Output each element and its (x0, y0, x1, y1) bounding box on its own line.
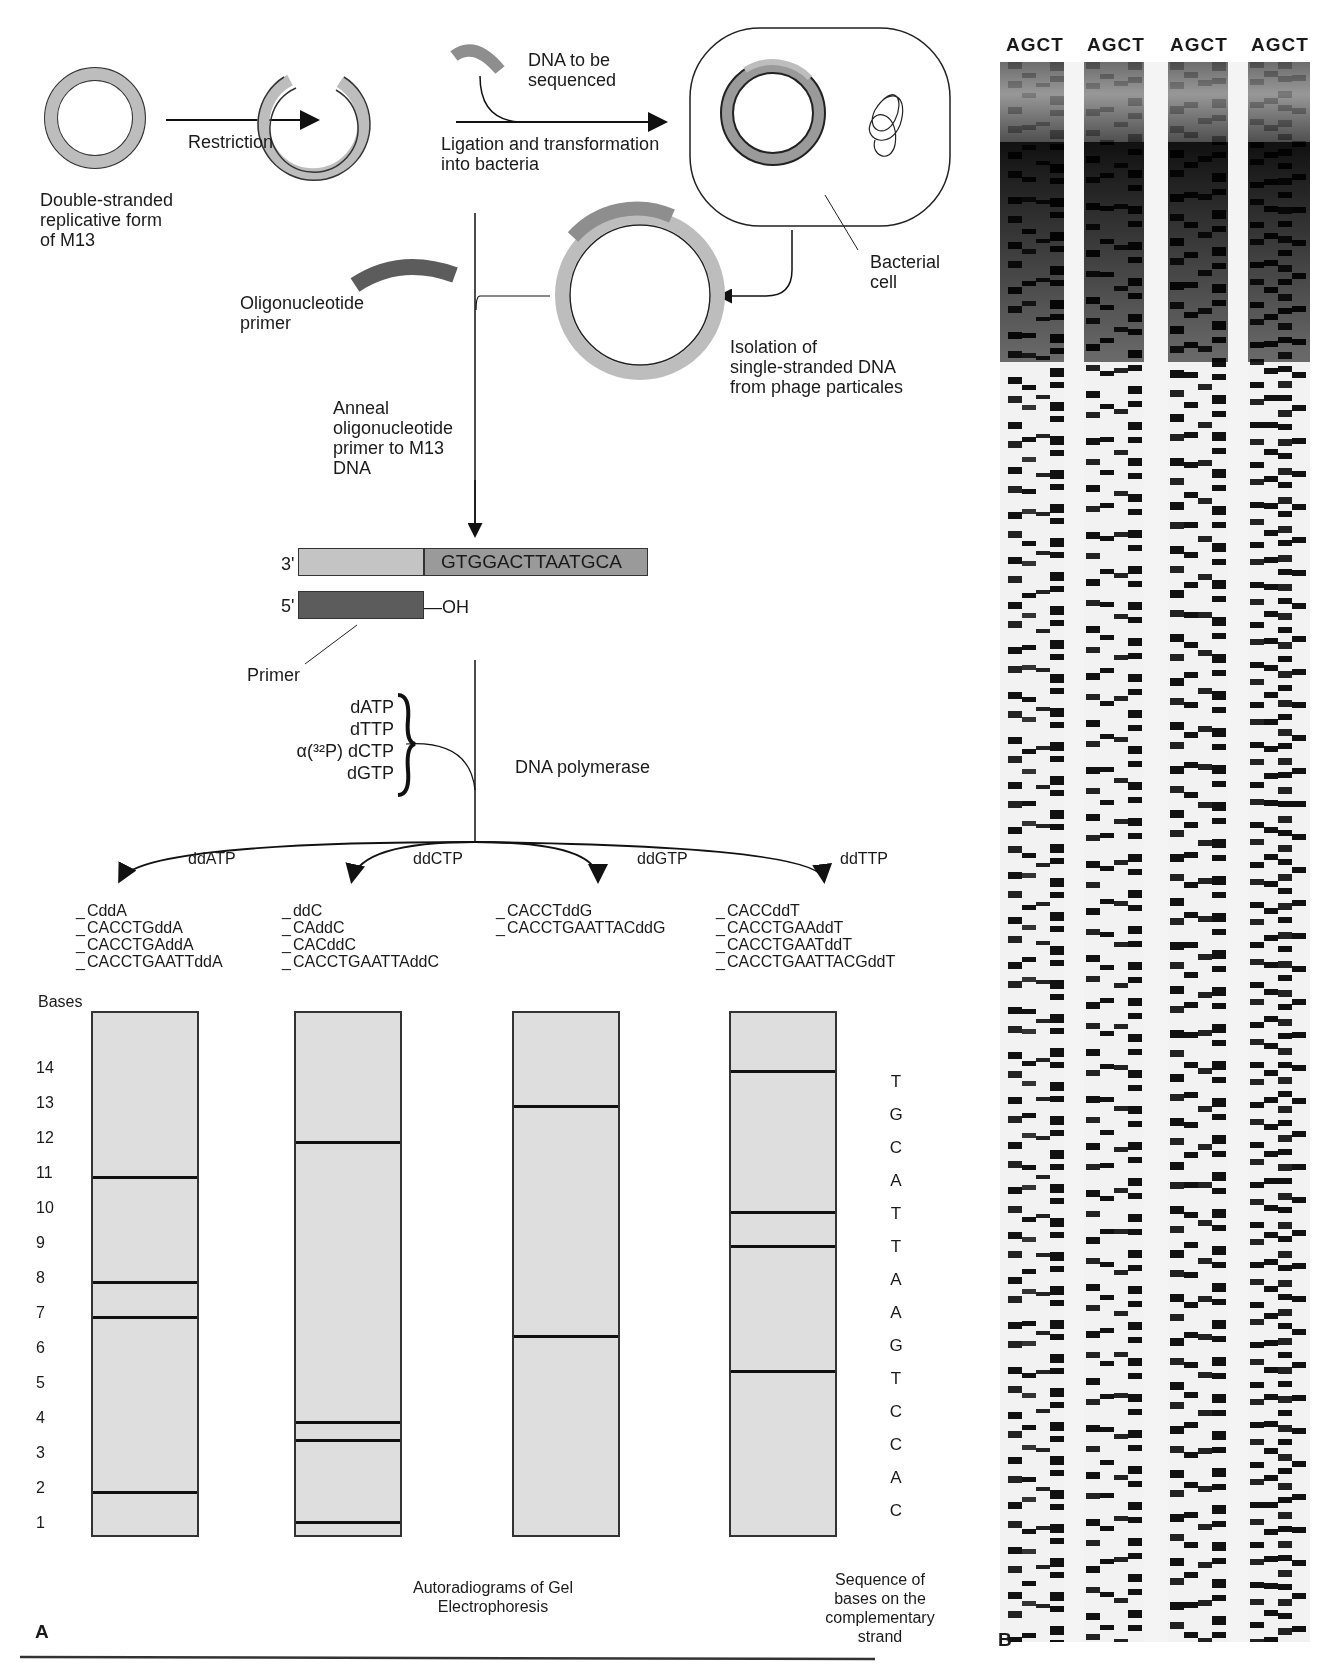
lane-header-1: AGCT (1006, 34, 1064, 56)
band-6 (514, 1335, 618, 1338)
dna-to-be-sequenced-label: DNA to be sequenced (528, 50, 616, 90)
base: A (886, 1468, 906, 1488)
band-8 (93, 1281, 197, 1284)
template-sequence: GTGGACTTAATGCA (424, 548, 648, 576)
sequence-caption: Sequence of bases on the complementary s… (818, 1570, 942, 1646)
dntp-datp: dATP (344, 697, 394, 717)
base: C (886, 1435, 906, 1455)
band-14 (731, 1070, 835, 1073)
bacterial-chromosome-icon (869, 95, 902, 156)
axis-tick: 12 (36, 1129, 66, 1147)
insert-dna-icon (454, 50, 500, 70)
base: C (886, 1501, 906, 1521)
base: T (886, 1204, 906, 1224)
band-7 (93, 1316, 197, 1319)
fragment: CAddC (282, 919, 439, 936)
band-1 (296, 1521, 400, 1524)
lane-header-3: AGCT (1170, 34, 1228, 56)
ligation-label: Ligation and transformation into bacteri… (441, 134, 659, 174)
isolation-arrow (720, 230, 792, 296)
fragment-list-t: CACCddT CACCTGAAddT CACCTGAATddT CACCTGA… (716, 902, 895, 970)
fragment-list-c: ddC CAddC CACddC CACCTGAATTAddC (282, 902, 439, 970)
primer-segment (298, 591, 424, 619)
fragment: CACCTddG (496, 902, 665, 919)
oh-label: —OH (424, 597, 469, 617)
fragment: CACCTGAATTACGddT (716, 953, 895, 970)
fragment: CACCTGAATddT (716, 936, 895, 953)
dna-polymerase-label: DNA polymerase (515, 757, 650, 777)
band-10 (731, 1211, 835, 1214)
axis-tick: 1 (36, 1514, 66, 1532)
base: A (886, 1171, 906, 1191)
fragment: CddA (76, 902, 223, 919)
base: A (886, 1270, 906, 1290)
terminator-label-ddatp: ddATP (188, 849, 236, 868)
gel-lane-a (91, 1011, 199, 1537)
fragment-list-a: CddA CACCTGddA CACCTGAddA CACCTGAATTddA (76, 902, 223, 970)
base: A (886, 1303, 906, 1323)
base: C (886, 1402, 906, 1422)
bacterial-cell-label: Bacterial cell (870, 252, 940, 292)
five-prime-label: 5' (281, 596, 294, 616)
base: T (886, 1237, 906, 1257)
base: C (886, 1138, 906, 1158)
terminator-label-ddgtp: ddGTP (637, 849, 688, 868)
recombinant-plasmid-icon (721, 61, 825, 165)
band-9 (731, 1245, 835, 1248)
anneal-label: Anneal oligonucleotide primer to M13 DNA (333, 398, 453, 478)
axis-tick: 6 (36, 1339, 66, 1357)
dntp-dgtp: dGTP (344, 763, 394, 783)
axis-tick: 9 (36, 1234, 66, 1252)
axis-tick: 7 (36, 1304, 66, 1322)
axis-tick: 2 (36, 1479, 66, 1497)
fragment-list-g: CACCTddG CACCTGAATTACddG (496, 902, 665, 936)
gel-lane-c (294, 1011, 402, 1537)
base: G (886, 1336, 906, 1356)
ddgtp-arrow (475, 842, 598, 880)
fragment: CACCTGAATTACddG (496, 919, 665, 936)
bases-axis-title: Bases (38, 992, 82, 1011)
m13-replicative-form-icon (45, 68, 145, 168)
band-13 (514, 1105, 618, 1108)
autoradiogram-caption: Autoradiograms of Gel Electrophoresis (388, 1578, 598, 1616)
axis-tick: 10 (36, 1199, 66, 1217)
band-3-5 (296, 1439, 400, 1442)
fragment: ddC (282, 902, 439, 919)
template-light-segment (298, 548, 424, 576)
fragment: CACCTGAddA (76, 936, 223, 953)
axis-tick: 11 (36, 1164, 66, 1182)
lane-header-2: AGCT (1087, 34, 1145, 56)
three-prime-label: 3' (281, 554, 294, 574)
sequencing-gel-photo (1000, 62, 1310, 1642)
axis-tick: 13 (36, 1094, 66, 1112)
double-stranded-label: Double-stranded replicative form of M13 (40, 190, 173, 250)
dntp-dctp-labeled: α(³²P) dCTP (270, 741, 394, 761)
base: T (886, 1072, 906, 1092)
dntp-dttp: dTTP (344, 719, 394, 739)
band-2 (93, 1491, 197, 1494)
axis-tick: 5 (36, 1374, 66, 1392)
gel-lane-t (729, 1011, 837, 1537)
axis-tick: 8 (36, 1269, 66, 1287)
primer-label: Primer (247, 665, 300, 685)
panel-label-b: B (998, 1629, 1012, 1651)
lane-header-4: AGCT (1251, 34, 1309, 56)
oligo-primer-label: Oligonucleotide primer (240, 293, 364, 333)
fragment: CACCddT (716, 902, 895, 919)
fragment: CACCTGAATTAddC (282, 953, 439, 970)
fragment: CACCTGddA (76, 919, 223, 936)
fragment: CACCTGAATTddA (76, 953, 223, 970)
band-12 (296, 1141, 400, 1144)
base: G (886, 1105, 906, 1125)
axis-tick: 4 (36, 1409, 66, 1427)
band-11 (93, 1176, 197, 1179)
axis-tick: 14 (36, 1059, 66, 1077)
panel-label-a: A (35, 1621, 49, 1643)
isolation-label: Isolation of single-stranded DNA from ph… (730, 337, 903, 397)
restriction-label: Restriction (188, 132, 273, 152)
base: T (886, 1369, 906, 1389)
fragment: CACddC (282, 936, 439, 953)
axis-tick: 3 (36, 1444, 66, 1462)
band-5-5 (731, 1370, 835, 1373)
single-stranded-dna-icon (562, 209, 718, 373)
